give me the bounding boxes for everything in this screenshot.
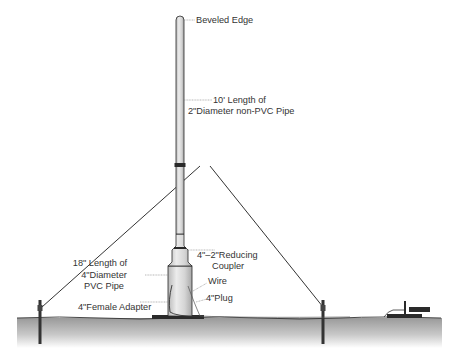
label-wire: Wire <box>208 276 227 286</box>
ground <box>17 317 442 348</box>
label-reducing-coupler-line1: 4"–2"Reducing <box>197 250 258 260</box>
label-pipe-length-line2: 2"Diameter non-PVC Pipe <box>188 106 294 116</box>
label-pvc-line1: 18" Length of <box>73 258 128 268</box>
main-pipe-2in <box>176 16 184 234</box>
label-female-adapter: 4"Female Adapter <box>78 302 151 312</box>
label-pvc-line2: 4"Diameter <box>81 270 127 280</box>
antenna-diagram: Beveled Edge 10' Length of 2"Diameter no… <box>0 0 456 356</box>
label-pvc-line3: PVC Pipe <box>84 281 124 291</box>
label-plug: 4"Plug <box>206 293 233 303</box>
label-pipe-length-line1: 10' Length of <box>213 95 266 105</box>
label-beveled-edge: Beveled Edge <box>196 15 253 25</box>
radio-equipment <box>384 301 430 318</box>
guy-ring-clamp <box>175 163 186 167</box>
label-reducing-coupler-line2: Coupler <box>212 261 244 271</box>
pvc-pipe-4in <box>168 266 192 316</box>
